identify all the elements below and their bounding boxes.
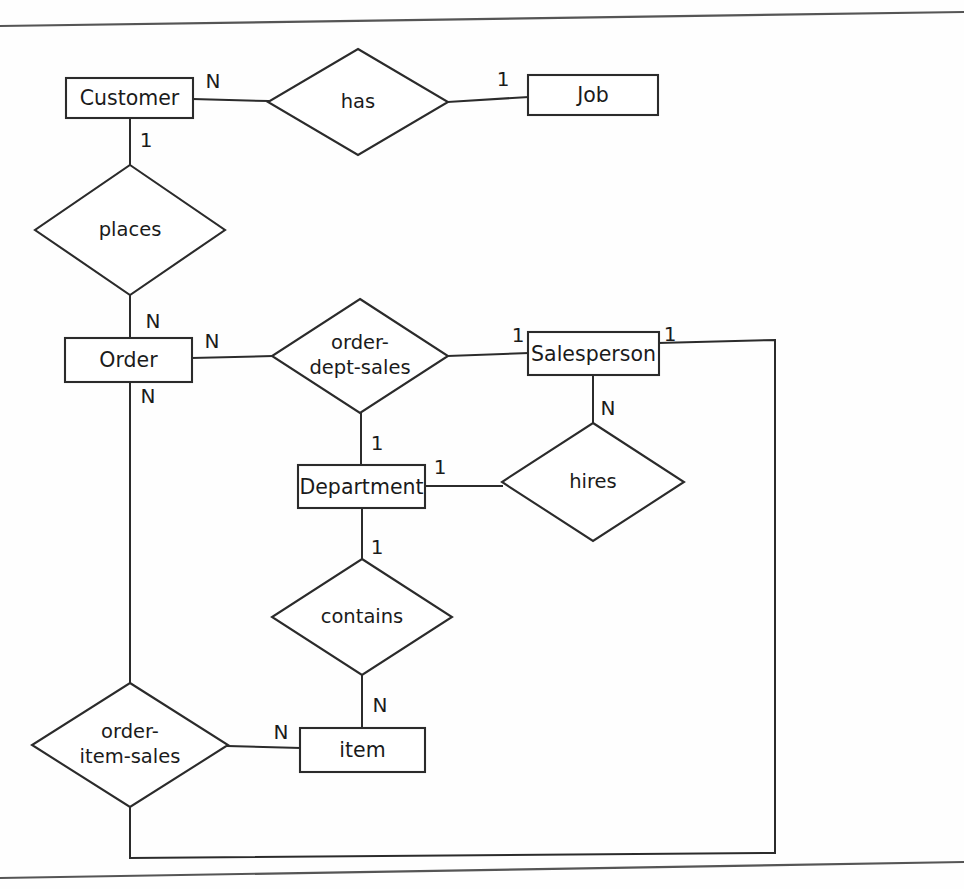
connector-orderitemsales-to-item: [228, 746, 300, 748]
cardinality-customer-places: 1: [140, 128, 153, 152]
entity-label-customer: Customer: [80, 86, 180, 110]
relationship-order-dept-sales[interactable]: order-dept-sales: [272, 299, 448, 413]
cardinality-salesperson-hires: N: [601, 396, 616, 420]
relationship-contains[interactable]: contains: [272, 559, 452, 675]
relationship-label-order-dept-sales-line1: order-: [331, 331, 389, 354]
relationship-label-places: places: [99, 218, 162, 241]
cardinality-orderdeptsales-dept: 1: [371, 431, 384, 455]
relationship-label-order-item-sales-line1: order-: [101, 720, 159, 743]
relationship-hires[interactable]: hires: [502, 423, 684, 541]
er-diagram-canvas: CustomerJobOrderSalespersonDepartmentite…: [0, 0, 964, 889]
cardinality-has-job: 1: [497, 67, 510, 91]
relationship-places[interactable]: places: [35, 165, 225, 295]
cardinality-places-order: N: [146, 309, 161, 333]
cardinality-contains-item: N: [373, 693, 388, 717]
entity-department[interactable]: Department: [298, 465, 425, 508]
entity-label-department: Department: [299, 475, 423, 499]
entity-label-job: Job: [575, 83, 609, 107]
bottom-edge: [0, 862, 964, 878]
relationship-label-contains: contains: [321, 605, 404, 628]
entity-order[interactable]: Order: [65, 338, 192, 382]
cardinality-department-hires: 1: [434, 455, 447, 479]
entity-label-item: item: [339, 738, 385, 762]
cardinality-salesperson-right: 1: [664, 322, 677, 346]
er-diagram-page: CustomerJobOrderSalespersonDepartmentite…: [0, 0, 964, 889]
entity-job[interactable]: Job: [528, 75, 658, 115]
entity-item[interactable]: item: [300, 728, 425, 772]
cardinality-orderdeptsales-sales: 1: [512, 323, 525, 347]
entity-customer[interactable]: Customer: [66, 78, 193, 118]
connector-has-to-job: [448, 97, 528, 102]
entity-label-order: Order: [99, 348, 158, 372]
top-edge: [0, 12, 964, 26]
cardinality-order-orderdeptsales: N: [205, 329, 220, 353]
relationship-label-hires: hires: [569, 470, 617, 493]
relationship-label-order-dept-sales-line2: dept-sales: [309, 356, 410, 379]
relationship-label-has: has: [341, 90, 375, 113]
connector-orderitemsales-to-salesperson: [130, 340, 775, 858]
connector-order-to-orderdeptsales: [192, 356, 272, 358]
cardinality-department-contains: 1: [371, 535, 384, 559]
entity-label-salesperson: Salesperson: [531, 342, 656, 366]
cardinality-customer-has: N: [206, 69, 221, 93]
relationship-order-item-sales[interactable]: order-item-sales: [32, 683, 228, 807]
cardinality-order-orderitemsales: N: [141, 384, 156, 408]
relationship-has[interactable]: has: [268, 49, 448, 155]
connector-customer-to-has: [193, 99, 268, 101]
relationship-label-order-item-sales-line2: item-sales: [80, 745, 181, 768]
entity-salesperson[interactable]: Salesperson: [528, 332, 659, 375]
cardinality-orderitemsales-item: N: [274, 720, 289, 744]
connector-orderdeptsales-to-salesperson: [448, 353, 528, 356]
